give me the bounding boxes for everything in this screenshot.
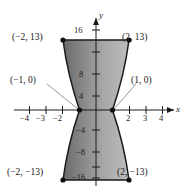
point-neg1-0 <box>77 107 82 112</box>
point-label-2-13: (2, 13) <box>122 33 147 43</box>
point-label-neg2-neg13: (−2, −13) <box>7 168 43 178</box>
x-tick-label-4: 4 <box>159 114 163 123</box>
y-tick-label-neg16: −16 <box>72 173 85 182</box>
x-axis-arrow <box>167 107 174 113</box>
point-1-0 <box>110 107 115 112</box>
x-tick-label-2: 2 <box>126 114 130 123</box>
point-2-neg13 <box>126 177 131 182</box>
y-tick-label-neg8: −8 <box>76 148 85 157</box>
y-tick-label-4: 4 <box>79 92 83 101</box>
y-tick-label-neg4: −4 <box>76 126 85 135</box>
point-label-neg1-0: (−1, 0) <box>10 76 36 86</box>
point-label-2-neg13: (2, −13) <box>117 168 148 178</box>
x-axis-label: x <box>176 105 180 114</box>
x-tick-label-neg2: −2 <box>53 114 62 123</box>
graph-figure: (−2, 13) (2, 13) (−1, 0) (1, 0) (−2, −13… <box>0 0 187 196</box>
point-neg2-13 <box>60 37 65 42</box>
y-tick-label-16: 16 <box>74 26 83 35</box>
point-neg2-neg13 <box>60 177 65 182</box>
y-tick-label-8: 8 <box>79 70 83 79</box>
point-label-neg2-13: (−2, 13) <box>12 33 43 43</box>
point-label-1-0: (1, 0) <box>131 76 152 86</box>
y-axis-label: y <box>99 11 103 20</box>
x-tick-label-neg4: −4 <box>20 114 29 123</box>
x-tick-label-neg3: −3 <box>36 114 45 123</box>
x-tick-label-3: 3 <box>143 114 147 123</box>
